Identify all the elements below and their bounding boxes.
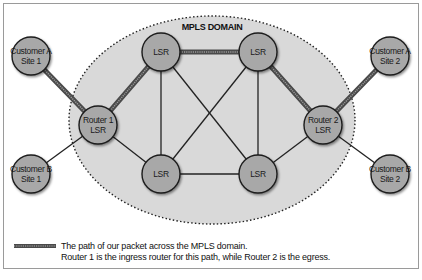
node-label: LSR — [250, 47, 266, 57]
node-router1: Router 1LSR — [79, 106, 117, 144]
node-label: Site 2 — [380, 174, 401, 184]
node-label: Customer A — [369, 46, 411, 56]
mpls-diagram-figure: MPLS DOMAIN Customer ASite 1Customer BSi… — [0, 0, 422, 280]
node-label: Customer B — [369, 164, 412, 174]
node-label: LSR — [250, 169, 266, 179]
node-router2: Router 2LSR — [304, 106, 342, 144]
node-lsr-bottom-right: LSR — [239, 155, 277, 193]
node-label: LSR — [153, 47, 169, 57]
node-lsr-top-right: LSR — [239, 33, 277, 71]
node-label: LSR — [90, 125, 106, 135]
legend-line-2: Router 1 is the ingress router for this … — [61, 252, 330, 262]
diagram-canvas: MPLS DOMAIN Customer ASite 1Customer BSi… — [0, 0, 422, 280]
node-label: Router 1 — [83, 115, 114, 125]
node-label: Site 1 — [21, 56, 42, 66]
legend-line-1: The path of our packet across the MPLS d… — [61, 241, 247, 251]
node-label: LSR — [315, 125, 331, 135]
mpls-domain-label: MPLS DOMAIN — [182, 22, 243, 32]
node-label: Router 2 — [308, 115, 339, 125]
node-lsr-bottom-left: LSR — [142, 155, 180, 193]
node-label: Site 1 — [21, 174, 42, 184]
node-label: Customer B — [10, 164, 53, 174]
node-lsr-top-left: LSR — [142, 33, 180, 71]
node-label: Customer A — [10, 46, 52, 56]
node-label: Site 2 — [380, 56, 401, 66]
node-label: LSR — [153, 169, 169, 179]
